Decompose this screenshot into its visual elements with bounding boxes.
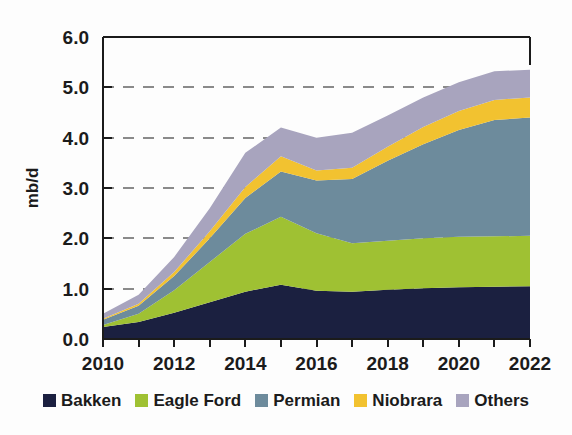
x-tick-label: 2018 xyxy=(367,353,409,374)
x-tick-label: 2016 xyxy=(295,353,337,374)
y-tick-label: 3.0 xyxy=(63,178,89,199)
legend-item-label: Permian xyxy=(273,392,340,409)
legend-item-niobrara[interactable]: Niobrara xyxy=(354,392,442,409)
legend-item-label: Others xyxy=(474,392,529,409)
y-axis-title-text: mb/d xyxy=(23,168,42,209)
y-tick-label: 6.0 xyxy=(63,27,89,48)
y-tick-label: 1.0 xyxy=(63,279,89,300)
y-axis-tick-labels: 0.01.02.03.04.05.06.0 xyxy=(63,27,89,350)
legend-item-bakken[interactable]: Bakken xyxy=(43,392,121,409)
area-series-layer xyxy=(103,70,530,339)
chart-legend: BakkenEagle FordPermianNiobraraOthers xyxy=(0,392,572,409)
legend-item-eagle-ford[interactable]: Eagle Ford xyxy=(135,392,241,409)
legend-item-label: Eagle Ford xyxy=(153,392,241,409)
x-tick-label: 2012 xyxy=(153,353,195,374)
legend-swatch-icon xyxy=(255,394,268,407)
legend-item-others[interactable]: Others xyxy=(456,392,529,409)
x-tick-label: 2020 xyxy=(438,353,480,374)
x-axis-tick-labels: 2010201220142016201820202022 xyxy=(82,353,551,374)
y-tick-label: 5.0 xyxy=(63,77,89,98)
legend-swatch-icon xyxy=(354,394,367,407)
legend-item-permian[interactable]: Permian xyxy=(255,392,340,409)
legend-swatch-icon xyxy=(456,394,469,407)
y-tick-label: 2.0 xyxy=(63,228,89,249)
y-axis-title: mb/d xyxy=(23,168,42,209)
legend-item-label: Niobrara xyxy=(372,392,442,409)
stacked-area-chart: 0.01.02.03.04.05.06.0 201020122014201620… xyxy=(0,0,572,435)
legend-swatch-icon xyxy=(135,394,148,407)
x-tick-label: 2010 xyxy=(82,353,124,374)
legend-item-label: Bakken xyxy=(61,392,121,409)
chart-canvas: 0.01.02.03.04.05.06.0 201020122014201620… xyxy=(0,0,572,435)
legend-swatch-icon xyxy=(43,394,56,407)
x-tick-label: 2022 xyxy=(509,353,551,374)
y-tick-label: 0.0 xyxy=(63,329,89,350)
y-tick-label: 4.0 xyxy=(63,128,89,149)
x-tick-label: 2014 xyxy=(224,353,267,374)
